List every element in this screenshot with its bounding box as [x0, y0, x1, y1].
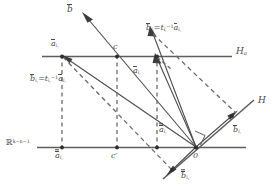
label-real-space: ℝk−n−1 — [6, 139, 30, 147]
point-b-dbar-i1 — [170, 168, 174, 172]
equation-b-ir: bir=tir−1air — [146, 24, 181, 33]
label-b-bar-ir-right: bir — [233, 126, 241, 135]
point-a-bar-ir — [155, 55, 159, 59]
label-a-bar-i1-upper: ai1 — [51, 40, 59, 49]
label-a-dbar-ir-lower: air — [159, 126, 166, 135]
point-c — [115, 55, 119, 59]
point-a-dbar-ir — [155, 146, 159, 150]
point-a-dbar-i1 — [60, 146, 64, 150]
point-c-prime — [115, 146, 119, 150]
equation-b-i1: bi1=ti1−1ai1 — [30, 75, 66, 84]
point-origin — [194, 145, 198, 149]
diagram-canvas — [0, 0, 277, 189]
label-b-dbar-i1-bottom: bi1 — [181, 172, 189, 181]
geometric-diagram: b c c′ Ha H 0 ℝk−n−1 ai1 air ai1 air bi1… — [0, 0, 277, 189]
point-a-bar-i1 — [60, 55, 64, 59]
label-c-prime: c′ — [111, 152, 117, 160]
label-a-dbar-i1-lower: ai1 — [55, 152, 63, 161]
vector-b-bar-ir — [148, 26, 197, 147]
dashed-proj-ir — [153, 34, 236, 113]
label-hyperplane-H: H — [258, 96, 266, 105]
label-a-bar-ir-mid: air — [133, 67, 140, 76]
label-hyperplane-Ha: Ha — [236, 47, 247, 57]
label-b-hat: b — [67, 5, 73, 14]
label-origin: 0 — [193, 152, 198, 160]
point-b-bar-ir-right — [230, 114, 234, 118]
label-c: c — [113, 43, 117, 51]
hyperplane-H-line — [163, 100, 254, 179]
